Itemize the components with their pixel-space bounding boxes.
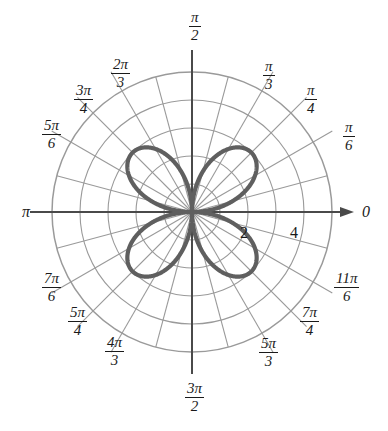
angle-label-numerator: 11π bbox=[334, 271, 359, 288]
angle-label-denominator: 2 bbox=[189, 27, 201, 43]
angle-label-numerator: 5π bbox=[259, 336, 278, 353]
angle-label-denominator: 3 bbox=[105, 352, 124, 368]
angle-label-numerator: 7π bbox=[42, 271, 61, 288]
grid-spoke-165deg bbox=[57, 176, 192, 212]
angle-label-numerator: π bbox=[305, 83, 317, 100]
grid-spoke-195deg bbox=[57, 212, 192, 248]
angle-label-numerator: 2π bbox=[111, 57, 130, 74]
angle-label-denominator: 4 bbox=[300, 322, 319, 338]
grid-spoke-60deg bbox=[192, 72, 273, 212]
angle-label-denominator: 6 bbox=[334, 288, 359, 304]
grid-spoke-150deg bbox=[52, 131, 192, 212]
angle-label-numerator: 4π bbox=[105, 335, 124, 352]
angle-label-theta-pi-6: π6 bbox=[343, 120, 355, 153]
angle-label-theta-pi-4: π4 bbox=[305, 83, 317, 116]
grid-spoke-210deg bbox=[52, 212, 192, 293]
grid-spoke-240deg bbox=[111, 212, 192, 352]
angle-label-theta-0: 0 bbox=[362, 203, 370, 221]
angle-label-denominator: 4 bbox=[305, 100, 317, 116]
angle-label-denominator: 3 bbox=[263, 76, 275, 92]
angle-label-numerator: π bbox=[263, 59, 275, 76]
radial-tick-r-4: 4 bbox=[290, 224, 298, 242]
angle-label-numerator: π bbox=[343, 120, 355, 137]
radial-tick-r-2: 2 bbox=[240, 224, 248, 242]
grid-spoke-300deg bbox=[192, 212, 273, 352]
angle-label-theta-11pi-6: 11π6 bbox=[334, 271, 359, 304]
angle-label-theta-2pi-3: 2π3 bbox=[111, 57, 130, 90]
angle-label-denominator: 3 bbox=[259, 353, 278, 369]
grid-spoke-255deg bbox=[156, 212, 192, 347]
angle-label-denominator: 4 bbox=[68, 322, 87, 338]
grid-spoke-15deg bbox=[192, 176, 327, 212]
angle-label-numerator: 5π bbox=[68, 305, 87, 322]
angle-label-numerator: 3π bbox=[185, 381, 204, 398]
angle-label-theta-pi-3: π3 bbox=[263, 59, 275, 92]
angle-label-theta-3pi-2: 3π2 bbox=[185, 381, 204, 414]
grid-spoke-345deg bbox=[192, 212, 327, 248]
angle-label-denominator: 2 bbox=[185, 398, 204, 414]
angle-label-theta-4pi-3: 4π3 bbox=[105, 335, 124, 368]
axis-arrow-icon bbox=[340, 207, 354, 217]
angle-label-theta-7pi-6: 7π6 bbox=[42, 271, 61, 304]
polar-chart-svg bbox=[0, 0, 388, 431]
angle-label-denominator: 4 bbox=[74, 100, 93, 116]
angle-label-denominator: 6 bbox=[42, 135, 61, 151]
angle-label-theta-3pi-4: 3π4 bbox=[74, 83, 93, 116]
angle-label-denominator: 6 bbox=[343, 137, 355, 153]
angle-label-theta-5pi-6: 5π6 bbox=[42, 118, 61, 151]
angle-label-theta-7pi-4: 7π4 bbox=[300, 305, 319, 338]
angle-label-denominator: 3 bbox=[111, 74, 130, 90]
angle-label-numerator: 5π bbox=[42, 118, 61, 135]
grid-spoke-105deg bbox=[156, 77, 192, 212]
angle-label-numerator: 7π bbox=[300, 305, 319, 322]
polar-plot: 0π6π4π3π22π33π45π6π7π65π44π33π25π37π411π… bbox=[0, 0, 388, 431]
angle-label-theta-pi-2: π2 bbox=[189, 10, 201, 43]
grid-spoke-75deg bbox=[192, 77, 228, 212]
angle-label-theta-5pi-4: 5π4 bbox=[68, 305, 87, 338]
grid-spoke-225deg bbox=[77, 212, 192, 327]
angle-label-numerator: π bbox=[189, 10, 201, 27]
angle-label-theta-5pi-3: 5π3 bbox=[259, 336, 278, 369]
grid-spoke-30deg bbox=[192, 131, 332, 212]
angle-label-numerator: 3π bbox=[74, 83, 93, 100]
angle-label-theta-pi: π bbox=[22, 203, 30, 221]
grid-spoke-120deg bbox=[111, 72, 192, 212]
grid-spoke-285deg bbox=[192, 212, 228, 347]
grid-spoke-45deg bbox=[192, 97, 307, 212]
grid-spoke-135deg bbox=[77, 97, 192, 212]
grid-spoke-330deg bbox=[192, 212, 332, 293]
angle-label-denominator: 6 bbox=[42, 288, 61, 304]
